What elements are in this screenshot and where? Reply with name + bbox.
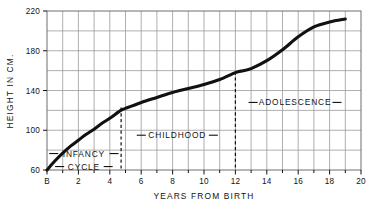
x-tick-label: 16 — [293, 177, 303, 186]
x-tick-label: 18 — [325, 177, 335, 186]
x-tick-label: B — [44, 177, 50, 186]
y-axis-title: HEIGHT IN CM. — [5, 54, 15, 129]
growth-chart-figure: INFANCYCYCLECHILDHOODADOLESCENCE 6010014… — [0, 0, 375, 204]
chart-canvas: INFANCYCYCLECHILDHOODADOLESCENCE 6010014… — [0, 0, 375, 204]
y-tick-label: 60 — [30, 166, 40, 175]
y-tick-label: 220 — [26, 7, 41, 16]
x-tick-label: 2 — [76, 177, 81, 186]
x-tick-label: 14 — [262, 177, 272, 186]
x-tick-label: 10 — [199, 177, 209, 186]
stage-label-childhood: CHILDHOOD — [148, 130, 206, 140]
x-tick-label: 4 — [107, 177, 112, 186]
x-axis-title: YEARS FROM BIRTH — [153, 191, 254, 201]
stage-label-infancy: INFANCY — [63, 149, 105, 159]
y-tick-label: 140 — [26, 87, 41, 96]
y-tick-label: 180 — [26, 47, 41, 56]
stage-label-adolescence: ADOLESCENCE — [259, 97, 332, 107]
x-tick-label: 20 — [356, 177, 366, 186]
y-tick-label: 100 — [26, 126, 41, 135]
x-tick-label: 12 — [231, 177, 241, 186]
stage-label-infancy: CYCLE — [68, 162, 100, 172]
x-tick-label: 8 — [170, 177, 175, 186]
x-tick-label: 6 — [139, 177, 144, 186]
